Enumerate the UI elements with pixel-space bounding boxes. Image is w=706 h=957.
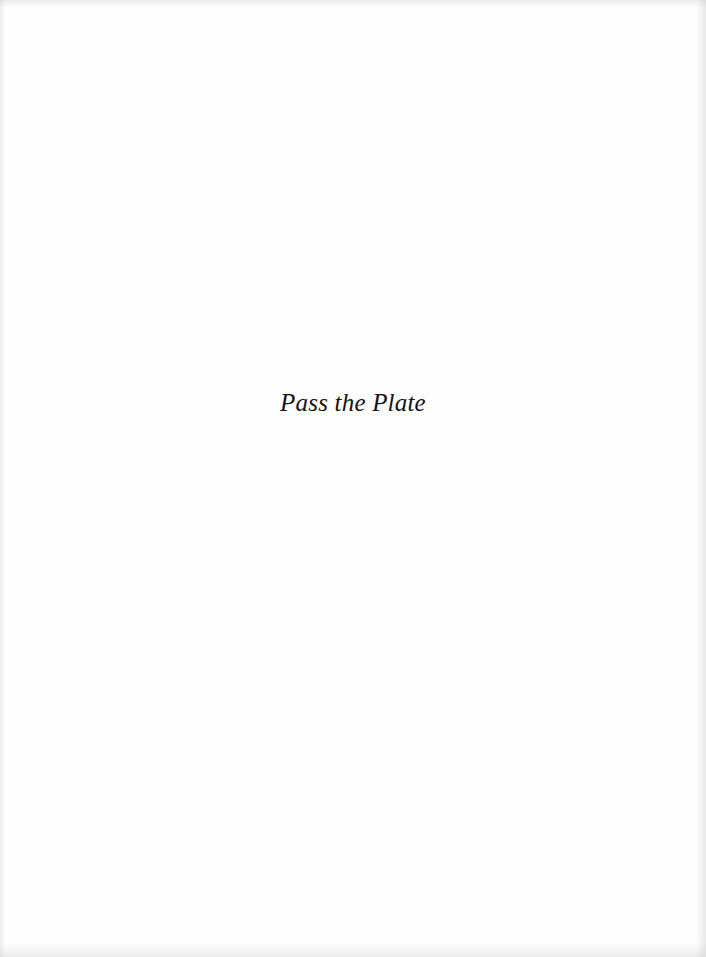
scan-edge-shadow-right	[696, 0, 706, 957]
scan-edge-shadow-bottom	[0, 943, 706, 957]
scan-edge-shadow-top	[0, 0, 706, 8]
book-page: Pass the Plate	[0, 0, 706, 957]
half-title: Pass the Plate	[0, 388, 706, 418]
scan-edge-shadow-left	[0, 0, 5, 957]
